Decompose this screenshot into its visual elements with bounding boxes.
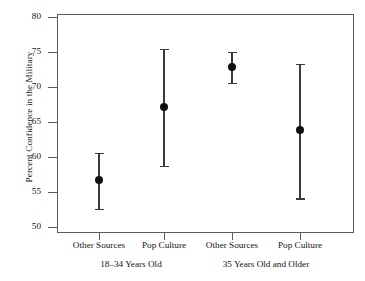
data-point-marker	[296, 126, 304, 134]
error-bar-cap-lower	[228, 83, 237, 84]
error-bar-cap-upper	[228, 52, 237, 53]
error-bar-cap-lower	[95, 209, 104, 210]
error-bar-cap-upper	[160, 49, 169, 50]
error-bar-cap-upper	[95, 153, 104, 154]
error-bar-cap-lower	[160, 166, 169, 167]
chart-figure: Percent Confidence in the Military 50 55…	[0, 0, 365, 281]
data-point-marker	[160, 103, 168, 111]
data-series	[0, 0, 365, 281]
error-bar-cap-lower	[296, 198, 305, 199]
data-point-marker	[228, 63, 236, 71]
error-bar-cap-upper	[296, 64, 305, 65]
data-point-marker	[95, 176, 103, 184]
